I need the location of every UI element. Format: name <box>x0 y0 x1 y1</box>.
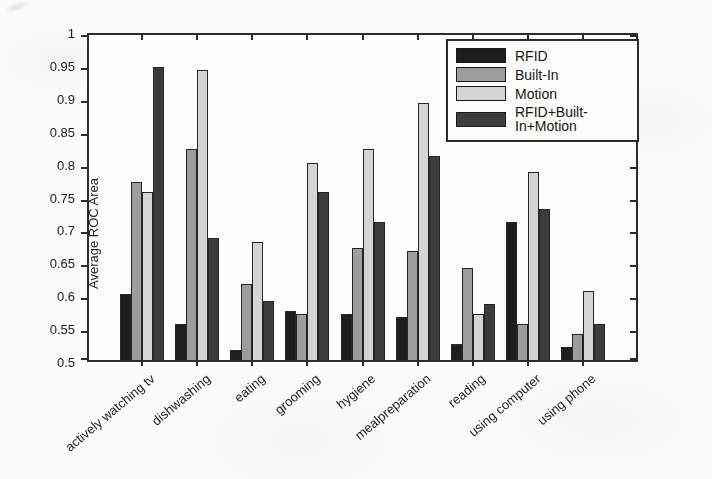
y-tick-label: 0.5 <box>35 356 75 369</box>
bar-motion-8 <box>583 291 594 360</box>
bar-built-in-4 <box>352 248 363 360</box>
legend-label: RFID <box>515 49 548 63</box>
y-axis-title: Average ROC Area <box>86 124 101 344</box>
bar-rfid-built-in-motion-5 <box>429 156 440 360</box>
bar-rfid-built-in-motion-3 <box>318 192 329 360</box>
bar-motion-1 <box>197 70 208 360</box>
bar-rfid-3 <box>285 311 296 360</box>
bar-rfid-6 <box>451 344 462 360</box>
scan-smudge <box>3 0 31 16</box>
y-tick-right <box>630 232 636 234</box>
bar-built-in-0 <box>131 182 142 360</box>
y-tick-right <box>630 331 636 333</box>
bar-rfid-built-in-motion-0 <box>153 67 164 360</box>
legend-swatch <box>456 48 506 63</box>
x-tick-bottom <box>306 362 308 366</box>
bar-built-in-6 <box>462 268 473 360</box>
legend-item: RFID <box>456 48 637 63</box>
x-tick-bottom <box>582 362 584 366</box>
legend-label: Built-In <box>515 68 559 82</box>
bar-rfid-built-in-motion-6 <box>484 304 495 360</box>
bar-rfid-5 <box>396 317 407 360</box>
x-tick-bottom <box>251 362 253 366</box>
y-tick-left-out <box>81 167 87 169</box>
bar-rfid-1 <box>175 324 186 360</box>
y-tick-left-out <box>81 68 87 70</box>
y-tick-left-out <box>81 265 87 267</box>
bar-motion-5 <box>418 103 429 360</box>
bar-built-in-8 <box>572 334 583 360</box>
y-tick-label: 0.7 <box>35 224 75 237</box>
y-tick-left-out <box>81 35 87 37</box>
bar-rfid-7 <box>506 222 517 360</box>
bar-built-in-3 <box>296 314 307 360</box>
x-tick-label: eating <box>231 371 268 405</box>
y-tick-label: 0.75 <box>35 192 75 205</box>
y-tick-left-out <box>81 101 87 103</box>
x-tick-top <box>417 35 419 40</box>
y-tick-left-out <box>81 200 87 202</box>
legend-box: RFIDBuilt-InMotionRFID+Built-In+Motion <box>446 39 639 142</box>
scanned-figure-page: Average ROC Area 10.950.90.850.80.750.70… <box>0 0 712 479</box>
x-tick-bottom <box>527 362 529 366</box>
bar-chart-figure: Average ROC Area 10.950.90.850.80.750.70… <box>0 0 712 479</box>
legend-item: Motion <box>456 86 637 101</box>
bar-rfid-built-in-motion-7 <box>539 209 550 360</box>
x-tick-bottom <box>417 362 419 366</box>
bar-motion-3 <box>307 163 318 360</box>
x-tick-label: grooming <box>272 371 323 417</box>
y-tick-label: 0.9 <box>35 93 75 106</box>
y-tick-label: 0.8 <box>35 159 75 172</box>
x-tick-bottom <box>472 362 474 366</box>
x-tick-label: reading <box>445 371 488 410</box>
x-tick-top <box>306 35 308 40</box>
y-tick-right <box>630 265 636 267</box>
x-tick-label: hygiene <box>334 371 379 412</box>
x-tick-label: dishwashing <box>148 371 212 428</box>
bar-built-in-5 <box>407 251 418 360</box>
y-tick-label: 0.6 <box>35 290 75 303</box>
y-tick-right <box>630 200 636 202</box>
legend-swatch <box>456 86 506 101</box>
bar-motion-7 <box>528 172 539 360</box>
y-tick-right <box>630 298 636 300</box>
bar-rfid-0 <box>120 294 131 360</box>
x-tick-top <box>251 35 253 40</box>
x-tick-label: using phone <box>535 371 599 428</box>
y-tick-label: 1 <box>35 27 75 40</box>
bar-rfid-built-in-motion-2 <box>263 301 274 360</box>
y-tick-left-out <box>81 331 87 333</box>
bar-rfid-2 <box>230 350 241 360</box>
bar-motion-0 <box>142 192 153 360</box>
y-tick-label: 0.55 <box>35 323 75 336</box>
bar-rfid-built-in-motion-8 <box>594 324 605 360</box>
x-tick-label: actively watching tv <box>62 371 157 454</box>
legend-item: Built-In <box>456 67 637 82</box>
x-tick-top <box>141 35 143 40</box>
y-tick-right <box>630 167 636 169</box>
bar-built-in-2 <box>241 284 252 360</box>
y-tick-right <box>630 35 636 37</box>
bar-rfid-8 <box>561 347 572 360</box>
bar-rfid-built-in-motion-1 <box>208 238 219 360</box>
y-tick-right <box>630 358 636 360</box>
bar-built-in-1 <box>186 149 197 360</box>
y-tick-label: 0.85 <box>35 126 75 139</box>
bar-motion-4 <box>363 149 374 360</box>
legend-label: Motion <box>515 87 557 101</box>
y-tick-label: 0.65 <box>35 257 75 270</box>
legend-swatch <box>456 67 506 82</box>
y-tick-left-out <box>81 358 87 360</box>
bar-built-in-7 <box>517 324 528 360</box>
x-tick-top <box>196 35 198 40</box>
y-tick-left-out <box>81 298 87 300</box>
bar-rfid-built-in-motion-4 <box>374 222 385 360</box>
x-tick-bottom <box>196 362 198 366</box>
legend-item: RFID+Built-In+Motion <box>456 105 637 133</box>
x-tick-top <box>362 35 364 40</box>
x-tick-bottom <box>141 362 143 366</box>
bar-motion-6 <box>473 314 484 360</box>
legend-swatch <box>456 112 506 127</box>
y-tick-left-out <box>81 134 87 136</box>
y-tick-left-out <box>81 232 87 234</box>
